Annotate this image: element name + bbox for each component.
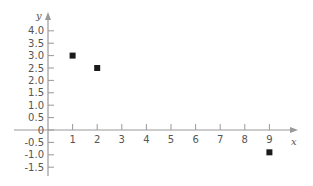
y-tick-label: -0.5 xyxy=(24,137,44,148)
x-axis-label: x xyxy=(291,136,297,147)
x-tick-label: 6 xyxy=(192,134,198,145)
x-tick-label: 9 xyxy=(266,134,272,145)
scatter-chart: 123456789 4.03.53.02.52.01.51.00.50-0.5-… xyxy=(0,0,313,186)
x-tick-label: 7 xyxy=(217,134,223,145)
y-tick-label: 1.0 xyxy=(28,100,44,111)
y-tick-label: 0 xyxy=(38,125,44,136)
x-axis-arrow-icon xyxy=(290,127,298,133)
y-tick-label: 3.5 xyxy=(28,38,44,49)
x-tick-label: 8 xyxy=(242,134,248,145)
x-tick-label: 5 xyxy=(168,134,174,145)
data-point-marker xyxy=(94,65,100,71)
data-point-marker xyxy=(266,149,272,155)
y-tick-label: -1.5 xyxy=(24,162,44,173)
axes xyxy=(14,12,298,176)
y-tick-label: 1.5 xyxy=(28,87,44,98)
y-tick-label: 2.5 xyxy=(28,63,44,74)
x-tick-label: 3 xyxy=(119,134,125,145)
y-axis-ticks: 4.03.53.02.52.01.51.00.50-0.5-1.0-1.5 xyxy=(24,25,54,172)
y-axis-label: y xyxy=(35,10,42,21)
y-tick-label: -1.0 xyxy=(24,149,44,160)
y-axis-arrow-icon xyxy=(45,12,51,20)
data-point-marker xyxy=(70,53,76,59)
y-tick-label: 0.5 xyxy=(28,112,44,123)
y-tick-label: 4.0 xyxy=(28,25,44,36)
y-tick-label: 2.0 xyxy=(28,75,44,86)
x-tick-label: 4 xyxy=(143,134,149,145)
x-tick-label: 2 xyxy=(94,134,100,145)
x-axis-ticks: 123456789 xyxy=(69,124,272,145)
y-tick-label: 3.0 xyxy=(28,50,44,61)
x-tick-label: 1 xyxy=(69,134,75,145)
